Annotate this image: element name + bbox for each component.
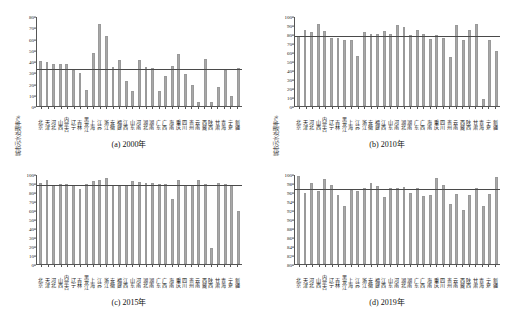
bar <box>217 183 220 264</box>
x-axis-label: 河北 <box>51 110 57 140</box>
bar <box>409 193 412 264</box>
bar <box>112 185 115 264</box>
mean-line-a <box>37 69 242 70</box>
bar <box>105 178 108 264</box>
bar <box>330 185 333 264</box>
bar <box>442 38 445 106</box>
bar <box>363 32 366 106</box>
bar <box>363 188 366 264</box>
bar <box>72 185 75 264</box>
figure-urban-sewage-treatment-rate: 城市污水处理率/% 01020304050607080 北京天津河北山西内蒙古辽… <box>0 0 516 317</box>
bar <box>158 91 161 106</box>
x-axis-label: 云南 <box>195 268 201 298</box>
bar-series-a <box>37 17 242 106</box>
bar <box>184 74 187 106</box>
bar <box>171 66 174 106</box>
bar <box>39 183 42 264</box>
bar <box>46 180 49 264</box>
chart-panel-d: 城市污水处理率/% 80828486889092949698100 北京天津河北… <box>258 158 516 316</box>
x-axis-labels-d: 北京天津河北山西内蒙古辽宁吉林黑龙江上海江苏浙江安徽福建江西山东河南湖北湖南广东… <box>294 268 500 298</box>
x-axis-label: 云南 <box>195 110 201 140</box>
bar <box>403 187 406 264</box>
bar-series-b <box>295 17 500 106</box>
y-axis-ticks-c: 0102030405060708090100 <box>0 175 36 265</box>
bar <box>356 56 359 106</box>
bar <box>356 191 359 264</box>
bar <box>98 180 101 264</box>
bar <box>475 188 478 264</box>
bar <box>125 81 128 106</box>
bar <box>65 64 68 106</box>
x-axis-label: 内蒙古 <box>322 268 328 298</box>
x-axis-label: 云南 <box>453 110 459 140</box>
bar-series-c <box>37 175 242 264</box>
bar <box>237 211 240 264</box>
y-axis-ticks-a: 01020304050607080 <box>0 17 36 107</box>
bar <box>403 27 406 106</box>
bar <box>468 195 471 264</box>
bar <box>138 60 141 106</box>
chart-panel-a: 城市污水处理率/% 01020304050607080 北京天津河北山西内蒙古辽… <box>0 0 258 158</box>
y-axis-label-c: 城市污水处理率/% <box>14 96 24 176</box>
bar <box>92 181 95 264</box>
x-axis-label: 四川 <box>440 110 446 140</box>
x-axis-label: 河北 <box>309 268 315 298</box>
bar <box>210 248 213 264</box>
bar <box>177 180 180 264</box>
bar <box>343 206 346 265</box>
bar <box>442 185 445 264</box>
x-axis-label: 北京 <box>38 110 44 140</box>
bar <box>145 67 148 106</box>
x-axis-label: 河北 <box>309 110 315 140</box>
chart-panel-c: 城市污水处理率/% 0102030405060708090100 北京天津河北山… <box>0 158 258 316</box>
bar <box>177 54 180 106</box>
bar <box>376 186 379 264</box>
bar <box>52 64 55 106</box>
bar <box>429 39 432 106</box>
x-axis-label: 内蒙古 <box>322 110 328 140</box>
bar <box>416 188 419 264</box>
bar <box>138 182 141 264</box>
bar <box>145 183 148 264</box>
bar <box>112 67 115 106</box>
bar <box>370 34 373 106</box>
bar <box>224 184 227 264</box>
bar <box>79 73 82 106</box>
bar <box>396 188 399 264</box>
bar <box>409 35 412 106</box>
bar <box>350 40 353 106</box>
x-axis-label: 陕西 <box>466 268 472 298</box>
x-axis-label: 安徽 <box>110 268 116 298</box>
bar <box>237 68 240 106</box>
bar <box>164 184 167 264</box>
bar <box>217 87 220 106</box>
bar <box>435 35 438 106</box>
x-axis-label: 河南 <box>136 268 142 298</box>
bar <box>131 91 134 106</box>
x-axis-label: 安徽 <box>368 268 374 298</box>
bar <box>59 184 62 264</box>
x-axis-label: 新疆 <box>492 110 498 140</box>
bar <box>488 194 491 264</box>
x-axis-label: 河南 <box>394 110 400 140</box>
bar <box>449 204 452 264</box>
bar <box>171 199 174 264</box>
bar <box>85 184 88 264</box>
x-axis-label: 内蒙古 <box>64 110 70 140</box>
bar <box>468 30 471 107</box>
bar <box>337 195 340 264</box>
caption-b: (b) 2010年 <box>258 138 516 149</box>
mean-line-b <box>295 36 500 37</box>
y-axis-label-a: 城市污水处理率/% <box>14 0 24 18</box>
bar <box>482 99 485 106</box>
bar <box>310 32 313 106</box>
bar <box>197 180 200 264</box>
bar <box>389 34 392 106</box>
x-axis-label: 河北 <box>51 268 57 298</box>
bar <box>118 60 121 106</box>
bar <box>383 31 386 106</box>
bar <box>204 184 207 264</box>
mean-line-c <box>37 185 242 186</box>
mean-line-d <box>295 189 500 190</box>
bar <box>422 196 425 264</box>
